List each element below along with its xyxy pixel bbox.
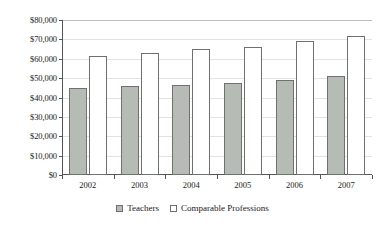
y-axis-label: $20,000 — [0, 132, 57, 141]
x-axis-tick — [114, 175, 115, 179]
bar-teachers-2006 — [276, 80, 294, 175]
bar-chart: $0$10,000$20,000$30,000$40,000$50,000$60… — [0, 0, 385, 225]
bar-teachers-2005 — [224, 83, 242, 175]
y-axis-label: $30,000 — [0, 113, 57, 122]
x-axis-tick — [217, 175, 218, 179]
bars-layer — [62, 20, 372, 175]
y-axis-label: $70,000 — [0, 35, 57, 44]
bar-group — [172, 20, 210, 175]
bar-teachers-2007 — [327, 76, 345, 175]
x-axis-label: 2005 — [220, 181, 266, 190]
legend-item-teachers: Teachers — [116, 203, 159, 213]
bar-group — [121, 20, 159, 175]
bar-comparable-professions-2006 — [296, 41, 314, 175]
legend-label: Comparable Professions — [181, 203, 269, 213]
x-axis-tick — [372, 175, 373, 179]
x-axis-label: 2004 — [168, 181, 214, 190]
bar-teachers-2003 — [121, 86, 139, 175]
x-axis-tick — [269, 175, 270, 179]
bar-teachers-2004 — [172, 85, 190, 175]
bar-comparable-professions-2005 — [244, 47, 262, 175]
bar-comparable-professions-2004 — [192, 49, 210, 175]
bar-group — [224, 20, 262, 175]
y-axis-label: $40,000 — [0, 94, 57, 103]
y-axis-label: $60,000 — [0, 55, 57, 64]
chart-legend: Teachers Comparable Professions — [0, 203, 385, 213]
legend-item-comparable-professions: Comparable Professions — [170, 203, 269, 213]
y-axis-label: $0 — [0, 171, 57, 180]
y-axis-label: $10,000 — [0, 152, 57, 161]
legend-swatch-icon — [116, 205, 123, 212]
bar-group — [276, 20, 314, 175]
x-axis-label: 2006 — [272, 181, 318, 190]
bar-comparable-professions-2003 — [141, 53, 159, 175]
x-axis-label: 2003 — [117, 181, 163, 190]
y-axis-label: $50,000 — [0, 74, 57, 83]
x-axis-tick — [165, 175, 166, 179]
bar-teachers-2002 — [69, 88, 87, 175]
bar-group — [69, 20, 107, 175]
legend-swatch-icon — [170, 205, 177, 212]
x-axis-tick — [62, 175, 63, 179]
x-axis-tick — [320, 175, 321, 179]
y-axis-label: $80,000 — [0, 16, 57, 25]
bar-comparable-professions-2002 — [89, 56, 107, 175]
x-axis-label: 2007 — [323, 181, 369, 190]
legend-label: Teachers — [127, 203, 159, 213]
x-axis-label: 2002 — [65, 181, 111, 190]
bar-comparable-professions-2007 — [347, 36, 365, 176]
bar-group — [327, 20, 365, 175]
